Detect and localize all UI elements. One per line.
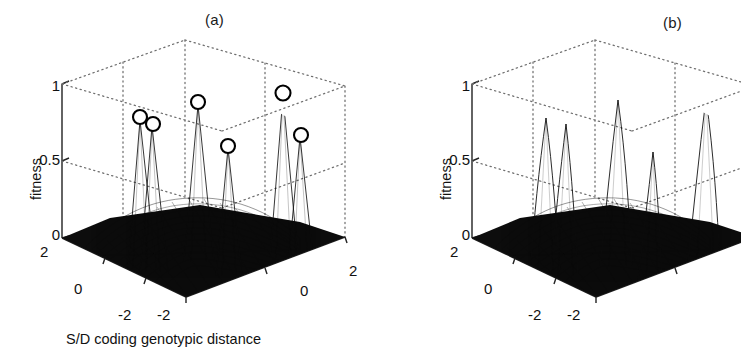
peak-marker	[294, 128, 308, 142]
peak-marker	[276, 86, 291, 101]
peak-marker	[133, 110, 147, 124]
panel-a-plot-area	[0, 0, 370, 362]
peak-marker	[191, 95, 205, 109]
panel-a-peak-markers	[133, 86, 308, 154]
peak-marker	[146, 117, 160, 131]
panel-b-base-plateau	[472, 205, 741, 297]
peak-marker	[221, 139, 235, 153]
panel-b-plot-area	[370, 0, 741, 362]
panel-a: (a) fitness 1 0.5 0 2 0 -2 -2 0 2 S/D co…	[0, 0, 370, 362]
panel-b: (b) fitness 1 0.5 0 2 0 -2 -2 Hamming di…	[370, 0, 741, 362]
figure-root: (a) fitness 1 0.5 0 2 0 -2 -2 0 2 S/D co…	[0, 0, 741, 362]
